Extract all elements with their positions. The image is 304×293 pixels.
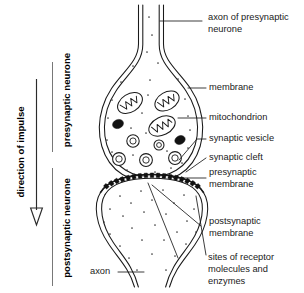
label-presynaptic-membrane-line2: membrane (209, 179, 253, 189)
synaptic-vesicle-2 (113, 153, 126, 166)
receptor-site (150, 173, 154, 178)
label-receptor-sites-line1: sites of receptor (208, 252, 274, 262)
label-axon: axon (90, 266, 110, 276)
label-synaptic-cleft: synaptic cleft (209, 152, 263, 162)
synaptic-vesicle-5 (154, 140, 164, 150)
vesicle-inner-ring (157, 143, 162, 148)
synaptic-vesicle-1 (127, 135, 139, 147)
label-postsynaptic-membrane-line2: membrane (209, 228, 253, 238)
label-postsynaptic-membrane-line1: postsynaptic (209, 216, 261, 226)
receptor-site (144, 173, 148, 178)
label-receptor-sites-line2: molecules and (208, 264, 268, 274)
vesicle-inner-ring (143, 157, 149, 163)
vesicle-inner-ring (116, 156, 122, 162)
label-axon-of-presynaptic-neurone-line1: axon of presynaptic (208, 12, 289, 22)
label-receptor-sites-line3: enzymes (208, 276, 246, 286)
receptor-site (138, 173, 142, 178)
vesicle-inner-ring (130, 138, 136, 144)
label-synaptic-vesicle: synaptic vesicle (209, 133, 274, 143)
synaptic-vesicle-3 (140, 154, 153, 167)
label-membrane: membrane (209, 82, 253, 92)
presynaptic-neurone-label: presynaptic neurone (61, 53, 72, 147)
postsynaptic-neurone-label: postsynaptic neurone (61, 178, 72, 278)
label-axon-of-presynaptic-neurone-line2: neurone (208, 24, 242, 34)
label-mitochondrion: mitochondrion (209, 112, 267, 122)
receptor-site (162, 173, 166, 178)
vesicle-inner-ring (172, 155, 178, 161)
impulse-direction-label: direction of impulse (15, 106, 26, 197)
synapse-illustration: direction of impulse presynaptic neurone… (0, 0, 304, 293)
receptor-site (156, 173, 160, 178)
synaptic-vesicle-4 (169, 152, 182, 165)
label-presynaptic-membrane-line1: presynaptic (209, 167, 257, 177)
impulse-arrow-head (31, 208, 43, 225)
synapse-diagram: direction of impulse presynaptic neurone… (0, 0, 304, 293)
impulse-arrow-group (31, 79, 43, 225)
postsynaptic-neurone-body (96, 175, 207, 288)
